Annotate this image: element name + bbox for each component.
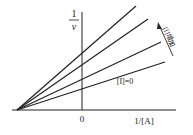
origin-label: 0 (80, 114, 85, 124)
y-label-denominator: v (72, 21, 77, 32)
inhibitor-increase-label: [I]增加 (161, 26, 178, 49)
line-no-inhibitor (17, 62, 165, 110)
line-inhibitor-high (17, 6, 136, 110)
baseline-label: [I]=0 (117, 77, 134, 86)
arrow-head-icon (157, 22, 162, 29)
lineweaver-burk-diagram: 1 v 0 1/[A] [I]=0 [I]增加 (0, 0, 193, 135)
x-axis-label: 1/[A] (134, 116, 154, 126)
y-label-numerator: 1 (72, 8, 77, 19)
line-inhibitor-low (17, 42, 161, 110)
